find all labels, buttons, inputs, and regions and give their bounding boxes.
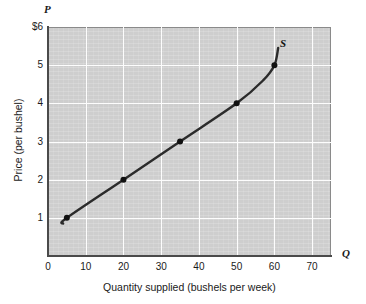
x-axis-title: Quantity supplied (bushels per week) <box>48 281 331 293</box>
supply-curve-plot <box>0 0 366 304</box>
data-point-marker <box>271 62 277 68</box>
supply-curve-figure: P Q $654321 010203040506070 S Quantity s… <box>0 0 366 304</box>
data-point-marker <box>177 139 183 145</box>
y-axis-title: Price (per bushel) <box>12 60 24 220</box>
data-point-marker <box>120 177 126 183</box>
supply-curve-series-label: S <box>280 37 286 49</box>
data-point-marker <box>64 215 70 221</box>
data-point-marker <box>234 100 240 106</box>
supply-curve-line <box>61 48 278 224</box>
